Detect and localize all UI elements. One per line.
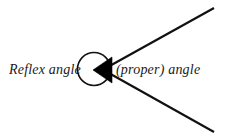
angle-diagram-figure: Reflex angle (proper) angle (0, 0, 225, 140)
reflex-angle-label: Reflex angle (9, 63, 81, 77)
proper-angle-label: (proper) angle (116, 63, 200, 77)
